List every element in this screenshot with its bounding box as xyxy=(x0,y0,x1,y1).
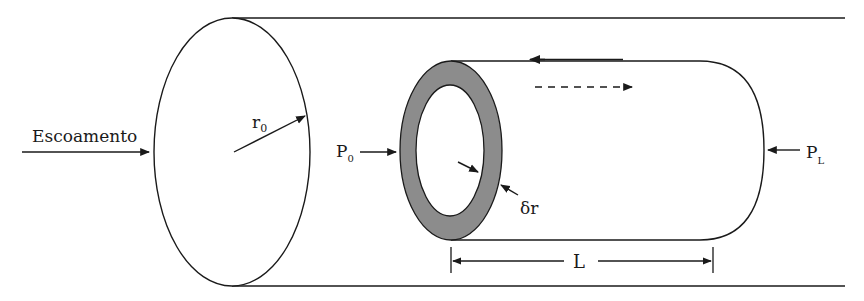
annular-shell-element xyxy=(400,61,764,240)
flow-label: Escoamento xyxy=(32,126,137,146)
pipe-flow-diagram: r0 Escoamento P0 PL δr L xyxy=(0,0,864,301)
thickness-label: δr xyxy=(520,198,539,218)
length-dimension: L xyxy=(451,247,713,273)
pipe-cross-section xyxy=(154,18,310,286)
length-label: L xyxy=(573,251,585,272)
outlet-pressure-label: PL xyxy=(806,142,824,166)
inlet-pressure-label: P0 xyxy=(336,141,354,164)
